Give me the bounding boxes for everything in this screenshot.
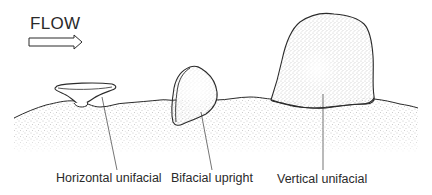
flow-label: FLOW [30,14,80,33]
vertical-unifacial-shape [271,13,374,108]
label-vertical-unifacial: Vertical unifacial [277,172,367,186]
label-horizontal-unifacial: Horizontal unifacial [56,171,162,185]
flow-indicator: FLOW [29,14,82,49]
diagram-svg: FLOW [0,0,432,195]
part-labels: Horizontal unifacial Bifacial upright Ve… [56,171,367,186]
sediment-bed [0,97,432,155]
flow-arrow-icon [29,35,82,49]
label-bifacial-upright: Bifacial upright [171,171,254,185]
flow-obstacle-diagram: FLOW [0,0,432,195]
